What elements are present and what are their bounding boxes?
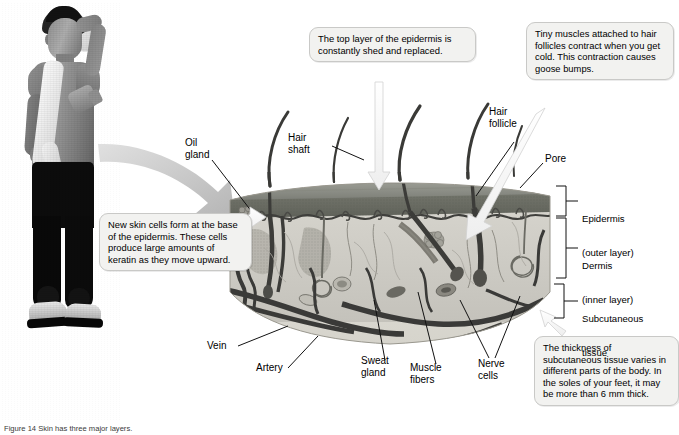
label-sweat-gland: Sweat gland xyxy=(361,355,389,378)
layer-name-epidermis: Epidermis xyxy=(582,213,634,224)
layer-sub-subcutaneous: tissue xyxy=(582,347,643,358)
label-muscle-fibers: Muscle fibers xyxy=(410,362,442,385)
layer-label-subcutaneous: Subcutaneous tissue xyxy=(582,290,643,381)
layer-name-dermis: Dermis xyxy=(582,260,633,271)
label-hair-follicle: Hair follicle xyxy=(489,106,517,129)
callout-new-skin-cells: New skin cells form at the base of the e… xyxy=(99,213,252,271)
label-oil-gland: Oil gland xyxy=(185,137,209,160)
label-nerve-cells: Nerve cells xyxy=(478,358,505,381)
skin-cross-section xyxy=(224,172,556,354)
label-hair-shaft: Hair shaft xyxy=(288,132,310,155)
figure-caption: Figure 14 Skin has three major layers. xyxy=(4,424,334,433)
label-pore: Pore xyxy=(545,153,566,165)
callout-goose-bumps: Tiny muscles attached to hair follicles … xyxy=(526,22,674,80)
layer-name-subcutaneous: Subcutaneous xyxy=(582,313,643,324)
callout-epidermis-shedding: The top layer of the epidermis is consta… xyxy=(309,27,476,62)
label-artery: Artery xyxy=(256,362,283,374)
label-vein: Vein xyxy=(207,340,226,352)
